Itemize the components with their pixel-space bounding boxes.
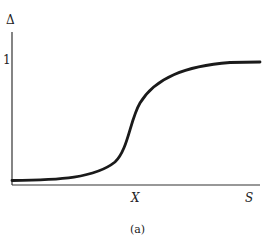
delta-curve	[12, 62, 260, 181]
x-axis-label: S	[245, 192, 253, 204]
figure-caption: (a)	[130, 224, 145, 236]
y-tick-1: 1	[3, 54, 11, 66]
x-tick-strike: X	[131, 192, 140, 204]
y-axis-label: Δ	[6, 14, 15, 26]
